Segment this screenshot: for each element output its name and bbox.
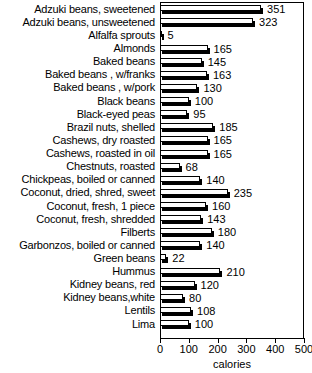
bar-face bbox=[160, 58, 202, 64]
bar-value-label: 165 bbox=[214, 149, 232, 160]
bar bbox=[160, 136, 211, 145]
bar-value-label: 95 bbox=[193, 109, 205, 120]
category-label: Cashews, dry roasted bbox=[53, 135, 155, 146]
bar-value-label: 323 bbox=[259, 17, 277, 28]
bar bbox=[160, 150, 211, 159]
bar bbox=[160, 31, 165, 40]
category-label: Adzuki beans, unsweetened bbox=[22, 17, 155, 28]
bar-face bbox=[160, 189, 228, 195]
bar-value-label: 235 bbox=[234, 188, 252, 199]
category-label: Lima bbox=[132, 319, 155, 330]
bar-value-label: 140 bbox=[206, 175, 224, 186]
bar-face bbox=[160, 294, 183, 300]
category-label: Filberts bbox=[121, 227, 155, 238]
bar-shadow bbox=[162, 34, 164, 40]
bar-face bbox=[160, 176, 200, 182]
category-label: Black beans bbox=[97, 96, 155, 107]
bar bbox=[160, 45, 211, 54]
bar-face bbox=[160, 281, 195, 287]
bar-value-label: 100 bbox=[195, 319, 213, 330]
bar bbox=[160, 228, 215, 237]
x-axis-tick-label: 300 bbox=[237, 344, 255, 355]
bar bbox=[160, 320, 192, 329]
bar-face bbox=[160, 254, 166, 260]
bar-value-label: 5 bbox=[168, 30, 174, 41]
category-label: Brazil nuts, shelled bbox=[67, 122, 155, 133]
bar bbox=[160, 110, 190, 119]
bar-value-label: 68 bbox=[186, 162, 198, 173]
category-label: Coconut, fresh, 1 piece bbox=[46, 201, 155, 212]
bar bbox=[160, 215, 204, 224]
bar bbox=[160, 123, 216, 132]
bars-layer bbox=[160, 2, 304, 339]
bar-face bbox=[160, 320, 189, 326]
bar-face bbox=[160, 228, 212, 234]
bar-value-label: 163 bbox=[213, 70, 231, 81]
bar-face bbox=[160, 123, 213, 129]
category-label: Hummus bbox=[112, 266, 155, 277]
category-label: Chestnuts, roasted bbox=[66, 161, 155, 172]
category-label: Chickpeas, boiled or canned bbox=[22, 174, 155, 185]
bar bbox=[160, 307, 194, 316]
calories-bar-chart: Adzuki beans, sweetenedAdzuki beans, uns… bbox=[0, 0, 312, 373]
x-axis-tick-label: 500 bbox=[295, 344, 312, 355]
bar-value-label: 145 bbox=[208, 57, 226, 68]
category-label: Adzuki beans, sweetened bbox=[34, 4, 155, 15]
bar-face bbox=[160, 71, 207, 77]
category-label: Baked beans bbox=[93, 56, 155, 67]
bar bbox=[160, 97, 192, 106]
category-label: Alfalfa sprouts bbox=[88, 30, 155, 41]
bar-face bbox=[160, 202, 206, 208]
bar-value-label: 165 bbox=[214, 44, 232, 55]
category-label: Coconut, fresh, shredded bbox=[36, 214, 155, 225]
x-axis-tick-label: 200 bbox=[208, 344, 226, 355]
category-label: Black-eyed peas bbox=[77, 109, 155, 120]
bar-face bbox=[160, 215, 201, 221]
category-axis-labels: Adzuki beans, sweetenedAdzuki beans, uns… bbox=[0, 0, 157, 340]
bar bbox=[160, 294, 186, 303]
category-label: Kidney beans,white bbox=[63, 292, 155, 303]
bar-value-label: 143 bbox=[207, 214, 225, 225]
bar bbox=[160, 281, 198, 290]
category-label: Baked beans , w/franks bbox=[45, 69, 155, 80]
bar-value-label: 351 bbox=[267, 4, 285, 15]
bar bbox=[160, 176, 203, 185]
bar-value-label: 165 bbox=[214, 135, 232, 146]
bar-face bbox=[160, 5, 261, 11]
category-label: Kidney beans, red bbox=[70, 279, 155, 290]
bar-value-label: 140 bbox=[206, 240, 224, 251]
bar bbox=[160, 84, 200, 93]
x-axis-title: calories bbox=[213, 359, 251, 370]
bar bbox=[160, 202, 209, 211]
bar bbox=[160, 58, 205, 67]
bar-face bbox=[160, 110, 187, 116]
bar-face bbox=[160, 163, 180, 169]
bar bbox=[160, 189, 231, 198]
bar bbox=[160, 254, 169, 263]
bar-value-label: 80 bbox=[189, 293, 201, 304]
bar bbox=[160, 241, 203, 250]
bar-face bbox=[160, 84, 197, 90]
x-axis-line bbox=[160, 338, 305, 339]
bar-value-label: 160 bbox=[212, 201, 230, 212]
bar bbox=[160, 268, 223, 277]
bar-value-label: 100 bbox=[195, 96, 213, 107]
bar-value-label: 120 bbox=[201, 280, 219, 291]
x-axis-tick-label: 0 bbox=[157, 344, 163, 355]
bar bbox=[160, 5, 264, 14]
bar-face bbox=[160, 136, 208, 142]
category-label: Cashews, roasted in oil bbox=[46, 148, 155, 159]
bar-value-label: 22 bbox=[172, 253, 184, 264]
bar bbox=[160, 71, 210, 80]
category-label: Lentils bbox=[125, 305, 155, 316]
bar bbox=[160, 18, 256, 27]
bar-value-label: 108 bbox=[197, 306, 215, 317]
category-label: Almonds bbox=[114, 43, 155, 54]
x-axis-tick-label: 400 bbox=[266, 344, 284, 355]
category-label: Garbonzos, boiled or canned bbox=[19, 240, 155, 251]
bar-value-label: 180 bbox=[218, 227, 236, 238]
bar-face bbox=[160, 45, 208, 51]
x-axis-tick-label: 100 bbox=[180, 344, 198, 355]
bar-face bbox=[160, 31, 162, 37]
bar-value-label: 210 bbox=[226, 267, 244, 278]
